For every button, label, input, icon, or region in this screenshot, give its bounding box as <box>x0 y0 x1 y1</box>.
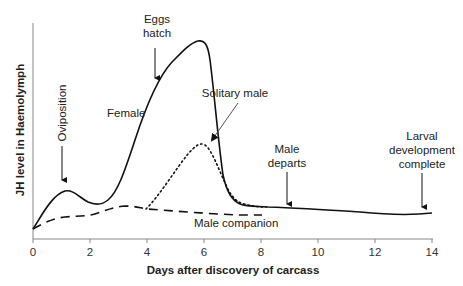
annotation-larval-line3: complete <box>399 158 446 170</box>
series-female <box>33 41 432 229</box>
tick-label: 14 <box>426 246 439 258</box>
x-tick-labels: 0 2 4 6 8 10 12 14 <box>30 246 439 258</box>
x-ticks <box>33 239 432 243</box>
jh-level-chart: 0 2 4 6 8 10 12 14 Days after discovery … <box>0 0 463 286</box>
tick-label: 12 <box>369 246 382 258</box>
annotation-oviposition: Oviposition <box>56 85 68 142</box>
tick-label: 10 <box>312 246 325 258</box>
series-solitary-male <box>146 144 266 209</box>
tick-label: 0 <box>30 246 36 258</box>
annotation-eggs-hatch-line1: Eggs <box>144 13 170 25</box>
annotation-larval-line1: Larval <box>406 130 437 142</box>
y-axis-title: JH level in Haemolymph <box>14 64 26 196</box>
tick-label: 4 <box>144 246 151 258</box>
annotation-eggs-hatch-line2: hatch <box>143 27 171 39</box>
annotation-male-departs-line2: departs <box>268 157 307 169</box>
x-axis-title: Days after discovery of carcass <box>147 264 320 276</box>
tick-label: 8 <box>258 246 264 258</box>
label-female: Female <box>107 107 145 119</box>
annotation-male-departs-line1: Male <box>275 143 300 155</box>
tick-label: 6 <box>201 246 207 258</box>
annotation-larval-line2: development <box>389 144 456 156</box>
tick-label: 2 <box>87 246 93 258</box>
annotation-solitary-male: Solitary male <box>202 87 268 99</box>
label-male-companion: Male companion <box>194 217 278 229</box>
